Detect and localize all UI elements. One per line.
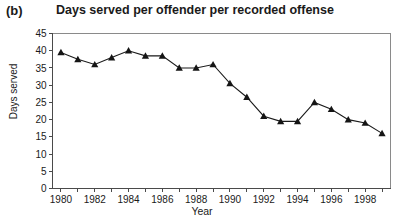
x-tick-label: 1998 (354, 194, 377, 205)
y-tick-label: 30 (35, 80, 47, 91)
x-tick-label: 1992 (253, 194, 276, 205)
y-tick-label: 25 (35, 97, 47, 108)
y-tick-label: 20 (35, 114, 47, 125)
x-tick-label: 1990 (219, 194, 242, 205)
y-tick-label: 35 (35, 63, 47, 74)
data-point-marker (74, 56, 81, 62)
series-polyline (61, 51, 382, 134)
data-series-line (61, 51, 382, 134)
y-tick-label: 15 (35, 131, 47, 142)
x-axis-ticks: 1980198219841986198819901992199419961998 (50, 189, 382, 206)
y-tick-label: 5 (41, 166, 47, 177)
data-point-marker (378, 130, 385, 136)
x-tick-label: 1996 (320, 194, 343, 205)
data-point-marker (57, 49, 64, 55)
x-tick-label: 1982 (84, 194, 107, 205)
x-tick-label: 1980 (50, 194, 73, 205)
data-point-marker (209, 61, 216, 67)
data-point-marker (311, 99, 318, 105)
y-axis-ticks: 051015202530354045 (35, 28, 52, 194)
y-tick-label: 45 (35, 28, 47, 39)
data-point-marker (108, 54, 115, 60)
data-point-marker (328, 106, 335, 112)
y-tick-label: 0 (41, 183, 47, 194)
line-chart-plot: 051015202530354045 198019821984198619881… (0, 0, 404, 224)
figure-panel-b: (b) Days served per offender per recorde… (0, 0, 404, 224)
x-tick-label: 1986 (151, 194, 174, 205)
plot-frame (53, 34, 391, 189)
y-tick-label: 10 (35, 149, 47, 160)
x-tick-label: 1988 (185, 194, 208, 205)
data-point-marker (345, 116, 352, 122)
data-point-marker (125, 47, 132, 53)
y-tick-label: 40 (35, 45, 47, 56)
x-tick-label: 1994 (286, 194, 309, 205)
x-tick-label: 1984 (117, 194, 140, 205)
data-series-markers (57, 47, 385, 136)
